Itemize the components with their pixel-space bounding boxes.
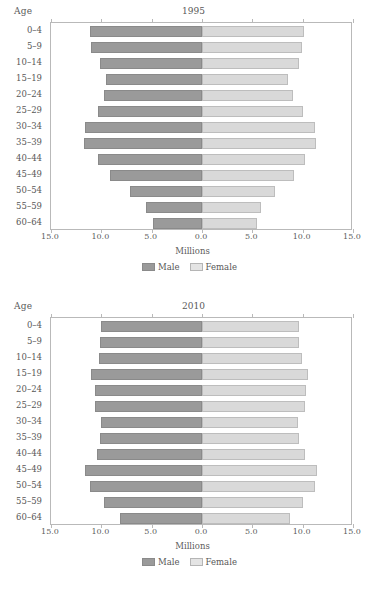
bar-male <box>90 481 202 492</box>
age-group-label: 60–64 <box>16 512 42 522</box>
x-axis-tick-label: 5.0 <box>245 232 258 241</box>
bar-female <box>202 58 299 69</box>
x-axis-tick-top <box>353 19 354 23</box>
x-axis-tick-top <box>101 19 102 23</box>
chart-title-2010: 2010 <box>0 301 379 311</box>
x-axis-tick-label: 15.0 <box>41 527 59 536</box>
bar-female <box>202 106 303 117</box>
bar-male <box>100 337 202 348</box>
x-axis-tick-top <box>152 19 153 23</box>
age-group-label: 25–29 <box>16 400 42 410</box>
bar-row <box>51 478 351 494</box>
bar-row <box>51 167 351 183</box>
x-axis-tick-label: 0.0 <box>195 232 208 241</box>
bar-row <box>51 199 351 215</box>
bar-male <box>104 497 202 508</box>
bar-female <box>202 417 298 428</box>
x-axis-tick-top <box>202 314 203 318</box>
bar-row <box>51 183 351 199</box>
bar-female <box>202 449 305 460</box>
bar-row <box>51 23 351 39</box>
x-axis-tick-top <box>353 314 354 318</box>
age-group-label: 10–14 <box>16 57 42 67</box>
age-group-label: 55–59 <box>16 496 42 506</box>
plot-area-2010 <box>50 317 352 525</box>
bar-row <box>51 39 351 55</box>
bar-row <box>51 135 351 151</box>
age-group-label: 15–19 <box>16 73 42 83</box>
bar-row <box>51 215 351 231</box>
x-axis-tick-label: 15.0 <box>343 232 361 241</box>
bar-female <box>202 90 293 101</box>
x-axis-tick-label: 10.0 <box>91 232 109 241</box>
x-axis-tick-top <box>303 314 304 318</box>
legend-item-female-2010: Female <box>190 557 237 567</box>
bar-female <box>202 218 257 229</box>
bar-male <box>106 74 202 85</box>
age-group-label: 15–19 <box>16 368 42 378</box>
male-swatch-icon <box>142 558 155 566</box>
chart-title-2010-text: 2010 <box>182 301 205 311</box>
age-group-label: 25–29 <box>16 105 42 115</box>
bar-female <box>202 170 294 181</box>
age-group-label: 30–34 <box>16 416 42 426</box>
x-axis-tick-top <box>152 314 153 318</box>
bar-male <box>95 385 202 396</box>
age-group-labels-1995: 0–45–910–1415–1920–2425–2930–3435–3940–4… <box>0 22 46 230</box>
bar-male <box>130 186 202 197</box>
bar-female <box>202 138 316 149</box>
x-axis-tick-top <box>202 19 203 23</box>
chart-title-1995: 1995 <box>0 6 379 16</box>
x-axis-labels-1995: 15.010.05.00.05.010.015.0 <box>0 232 379 244</box>
age-group-label: 50–54 <box>16 185 42 195</box>
age-group-label: 45–49 <box>16 464 42 474</box>
age-group-label: 40–44 <box>16 448 42 458</box>
age-group-label: 20–24 <box>16 384 42 394</box>
x-axis-tick-label: 5.0 <box>144 527 157 536</box>
age-group-label: 40–44 <box>16 153 42 163</box>
x-axis-tick-top <box>101 314 102 318</box>
bar-female <box>202 369 308 380</box>
age-group-label: 35–39 <box>16 432 42 442</box>
bar-male <box>91 369 202 380</box>
bar-male <box>153 218 202 229</box>
age-group-label: 20–24 <box>16 89 42 99</box>
bar-row <box>51 366 351 382</box>
bar-row <box>51 119 351 135</box>
bar-male <box>100 58 202 69</box>
x-axis-tick-label: 10.0 <box>293 527 311 536</box>
female-swatch-icon <box>190 263 203 271</box>
x-axis-title-1995: Millions <box>0 246 379 256</box>
bar-male <box>120 513 202 524</box>
x-axis-tick-top <box>252 314 253 318</box>
bar-female <box>202 186 275 197</box>
bar-male <box>98 106 202 117</box>
male-swatch-icon <box>142 263 155 271</box>
bar-row <box>51 510 351 526</box>
bar-female <box>202 497 303 508</box>
bar-row <box>51 494 351 510</box>
bar-male <box>100 433 202 444</box>
bar-row <box>51 446 351 462</box>
age-group-label: 50–54 <box>16 480 42 490</box>
bar-row <box>51 87 351 103</box>
bar-male <box>84 138 202 149</box>
bar-male <box>97 449 202 460</box>
bar-female <box>202 337 299 348</box>
x-axis-tick-label: 10.0 <box>91 527 109 536</box>
x-axis-title-1995-text: Millions <box>175 246 210 256</box>
age-group-label: 5–9 <box>27 336 42 346</box>
x-axis-tick-top <box>51 314 52 318</box>
bar-row <box>51 398 351 414</box>
bar-male <box>101 321 202 332</box>
chart-panel-1995: Age 1995 0–45–910–1415–1920–2425–2930–34… <box>0 0 379 295</box>
bar-male <box>110 170 202 181</box>
legend-1995: Male Female <box>0 262 379 272</box>
x-axis-tick-label: 15.0 <box>41 232 59 241</box>
bar-row <box>51 382 351 398</box>
bar-row <box>51 414 351 430</box>
chart-title-1995-text: 1995 <box>182 6 205 16</box>
bar-female <box>202 42 302 53</box>
bar-male <box>98 154 202 165</box>
chart-panel-2010: Age 2010 0–45–910–1415–1920–2425–2930–34… <box>0 295 379 590</box>
